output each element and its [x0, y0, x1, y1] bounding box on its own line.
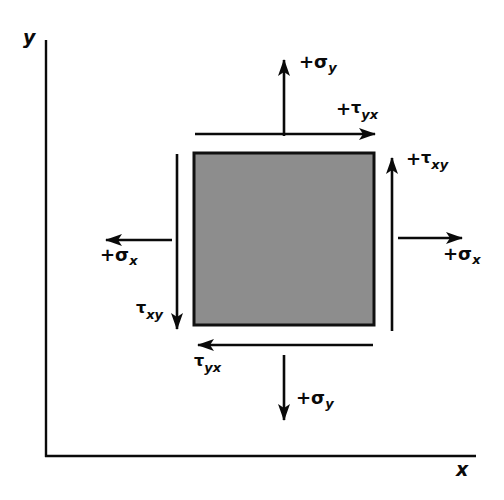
sigma-y-top-sign: +	[299, 51, 314, 72]
tau-xy-left-label: τxy	[136, 300, 163, 318]
tau-yx-bottom-symbol: τ	[194, 351, 204, 370]
sigma-x-left-sign: +	[100, 244, 115, 265]
sigma-x-right-symbol: σ	[458, 243, 472, 264]
tau-yx-top-sign: +	[336, 98, 351, 119]
stress-element-figure: y x +σy +τyx +τxy +σx +σx τxy τyx +σy	[0, 0, 504, 500]
tau-yx-top-symbol: τ	[351, 98, 361, 117]
diagram-canvas	[0, 0, 504, 500]
tau-yx-bottom-label: τyx	[194, 353, 221, 371]
tau-xy-right-label: +τxy	[406, 150, 448, 168]
tau-yx-top-label: +τyx	[336, 100, 378, 118]
sigma-y-bottom-symbol: σ	[311, 387, 325, 408]
sigma-x-right-label: +σx	[443, 245, 481, 263]
sigma-y-bottom-subscript: y	[325, 396, 333, 411]
tau-xy-left-subscript: xy	[146, 307, 163, 322]
tau-xy-right-subscript: xy	[431, 157, 448, 172]
tau-xy-right-symbol: τ	[421, 148, 431, 167]
tau-xy-right-sign: +	[406, 148, 421, 169]
tau-yx-top-subscript: yx	[361, 107, 378, 122]
sigma-x-left-subscript: x	[129, 253, 137, 268]
sigma-x-left-label: +σx	[100, 246, 138, 264]
x-axis-label: x	[456, 460, 468, 479]
sigma-x-right-subscript: x	[472, 252, 480, 267]
sigma-y-bottom-sign: +	[296, 387, 311, 408]
stress-element-square	[194, 153, 374, 325]
sigma-y-bottom-label: +σy	[296, 389, 334, 407]
sigma-y-top-subscript: y	[328, 60, 336, 75]
y-axis-label: y	[23, 28, 35, 47]
sigma-x-left-symbol: σ	[115, 244, 129, 265]
tau-yx-bottom-subscript: yx	[204, 360, 221, 375]
tau-xy-left-symbol: τ	[136, 298, 146, 317]
sigma-y-top-label: +σy	[299, 53, 337, 71]
sigma-x-right-sign: +	[443, 243, 458, 264]
sigma-y-top-symbol: σ	[314, 51, 328, 72]
